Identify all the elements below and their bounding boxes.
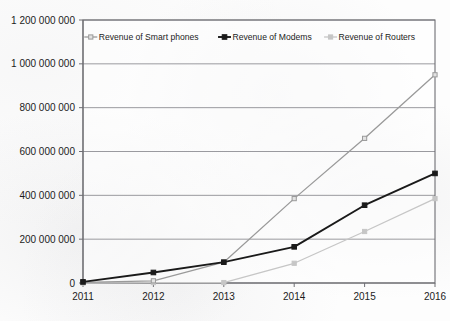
series-data-point-marker <box>81 280 86 285</box>
x-tick-label: 2014 <box>283 291 306 302</box>
line-chart: 0200 000 000400 000 000600 000 000800 00… <box>0 0 450 321</box>
series-data-point-marker <box>433 197 437 201</box>
y-tick-label: 1 000 000 000 <box>11 58 75 69</box>
legend-item: Revenue of Smart phones <box>84 32 198 42</box>
series-data-point-marker <box>151 270 156 275</box>
series-data-point-marker <box>363 229 367 233</box>
series-data-point-marker <box>433 73 437 77</box>
y-tick-label: 0 <box>69 278 75 289</box>
legend-marker-swatch <box>222 35 227 40</box>
legend-label: Revenue of Modems <box>233 32 312 42</box>
series-data-point-marker <box>362 203 367 208</box>
y-tick-label: 600 000 000 <box>19 146 75 157</box>
legend-item: Revenue of Modems <box>218 32 312 42</box>
chart-canvas: 0200 000 000400 000 000600 000 000800 00… <box>0 0 450 321</box>
y-tick-label: 800 000 000 <box>19 102 75 113</box>
y-tick-label: 200 000 000 <box>19 234 75 245</box>
legend-label: Revenue of Smart phones <box>99 32 199 42</box>
legend-label: Revenue of Routers <box>339 32 415 42</box>
y-tick-label: 1 200 000 000 <box>11 15 75 26</box>
legend-item: Revenue of Routers <box>324 32 415 42</box>
series-data-point-marker <box>292 245 297 250</box>
y-tick-label: 400 000 000 <box>19 190 75 201</box>
series-data-point-marker <box>433 171 438 176</box>
x-tick-label: 2013 <box>213 291 236 302</box>
legend-marker-swatch <box>89 35 93 39</box>
series-data-point-marker <box>363 136 367 140</box>
series-data-point-marker <box>292 261 296 265</box>
series-data-point-marker <box>292 197 296 201</box>
legend-marker-swatch <box>328 35 332 39</box>
x-tick-label: 2015 <box>353 291 376 302</box>
x-tick-label: 2016 <box>424 291 447 302</box>
x-tick-label: 2012 <box>142 291 165 302</box>
x-tick-label: 2011 <box>72 291 94 302</box>
series-data-point-marker <box>151 279 155 283</box>
series-data-point-marker <box>222 260 227 265</box>
series-data-point-marker <box>222 280 226 284</box>
